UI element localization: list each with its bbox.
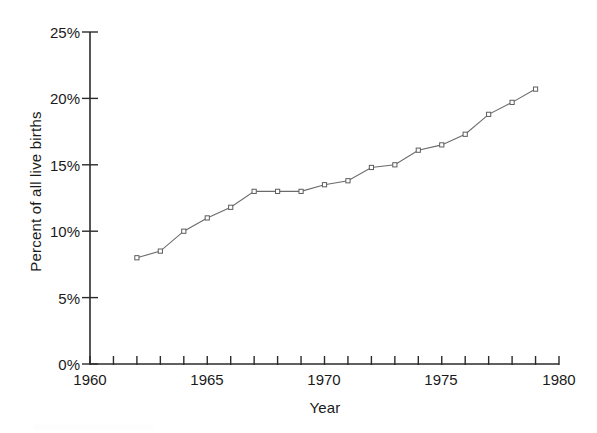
x-tick-label-1970: 1970 [307, 371, 340, 388]
caption-strip [34, 424, 154, 430]
x-tick-label-1965: 1965 [190, 371, 223, 388]
x-tick-label-1975: 1975 [424, 371, 457, 388]
line-chart: Percent of all live births Year 25% 20% … [0, 0, 597, 433]
x-tick-label-1960: 1960 [73, 371, 106, 388]
x-tick-label-1980: 1980 [542, 371, 575, 388]
x-axis-tick-labels: 1960 1965 1970 1975 1980 [0, 0, 597, 433]
